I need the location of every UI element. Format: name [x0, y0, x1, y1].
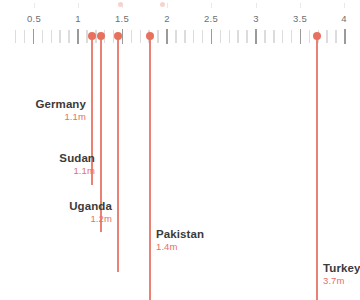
data-point-marker[interactable] [97, 32, 105, 40]
data-point-stem [149, 36, 151, 300]
data-point-name: Pakistan [156, 228, 204, 241]
data-point-name: Turkey [323, 262, 360, 275]
data-point-marker[interactable] [88, 32, 96, 40]
data-point-stem [316, 36, 318, 300]
data-point-annotation: Turkey3.7m [323, 262, 360, 287]
data-point-value: 1.2m [69, 213, 112, 225]
data-point-marker[interactable] [114, 32, 122, 40]
data-point-annotation: Uganda1.2m [69, 200, 112, 225]
data-point-name: Germany [35, 98, 86, 111]
data-point-marker[interactable] [313, 32, 321, 40]
data-point-value: 1.1m [59, 165, 95, 177]
data-point-annotation: Pakistan1.4m [156, 228, 204, 253]
data-point-annotation: Germany1.1m [35, 98, 86, 123]
data-point-name: Uganda [69, 200, 112, 213]
data-point-marker[interactable] [146, 32, 154, 40]
data-point-value: 1.1m [35, 111, 86, 123]
data-point-value: 3.7m [323, 275, 360, 287]
data-point-annotation: Sudan1.1m [59, 152, 95, 177]
data-point-name: Sudan [59, 152, 95, 165]
data-point-value: 1.4m [156, 241, 204, 253]
data-point-stem [117, 36, 119, 272]
